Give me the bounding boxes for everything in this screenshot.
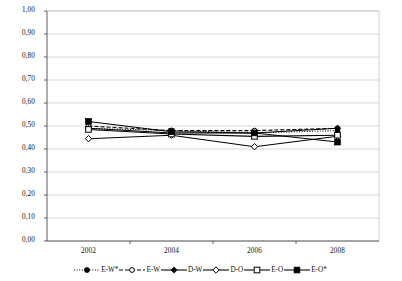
- data-point: [252, 130, 258, 136]
- y-axis-label: 1,00: [5, 6, 35, 14]
- legend-label: E-W*: [100, 266, 119, 274]
- legend-swatch-filled-square-icon: [284, 264, 310, 276]
- series-line: [89, 135, 338, 147]
- legend-marker: [294, 267, 300, 273]
- chart-canvas: [0, 0, 402, 281]
- legend-label: E-W: [145, 266, 161, 274]
- legend-label: D-W: [187, 266, 203, 274]
- x-axis-label: 2008: [318, 247, 358, 255]
- legend-swatch-open-square-icon: [244, 264, 270, 276]
- x-axis-label: 2004: [152, 247, 192, 255]
- legend-marker: [254, 267, 260, 273]
- legend-item-e-o[interactable]: E-O: [244, 263, 284, 277]
- legend-label: D-O: [229, 266, 244, 274]
- legend-marker: [213, 266, 219, 272]
- legend-marker: [171, 266, 177, 272]
- legend-label: E-O: [270, 266, 284, 274]
- y-axis-label: 0,60: [5, 98, 35, 106]
- data-point: [169, 129, 175, 135]
- legend-item-d-o[interactable]: D-O: [203, 263, 244, 277]
- legend-swatch-open-diamond-icon: [203, 264, 229, 276]
- y-axis-label: 0,50: [5, 121, 35, 129]
- legend-label: E-O*: [310, 266, 328, 274]
- data-point: [335, 132, 341, 138]
- y-axis-label: 0,70: [5, 75, 35, 83]
- y-axis-label: 0,20: [5, 190, 35, 198]
- data-point: [86, 127, 92, 133]
- y-axis-label: 0,30: [5, 167, 35, 175]
- line-chart: 1,000,900,800,700,600,500,400,300,200,10…: [0, 0, 402, 281]
- legend-item-d-w[interactable]: D-W: [161, 263, 203, 277]
- legend-marker: [130, 267, 135, 272]
- legend-item-e-o[interactable]: E-O*: [284, 263, 328, 277]
- y-axis-label: 0,80: [5, 52, 35, 60]
- legend-swatch-filled-circle-icon: [74, 264, 100, 276]
- data-point: [86, 119, 92, 125]
- data-point: [85, 135, 91, 141]
- y-axis-label: 0,00: [5, 236, 35, 244]
- y-axis-label: 0,10: [5, 213, 35, 221]
- legend-item-e-w[interactable]: E-W*: [74, 263, 119, 277]
- legend-swatch-open-circle-icon: [119, 264, 145, 276]
- legend-marker: [85, 267, 90, 272]
- chart-legend: E-W*E-WD-WD-OE-OE-O*: [0, 262, 402, 277]
- y-axis-label: 0,90: [5, 29, 35, 37]
- y-axis-label: 0,40: [5, 144, 35, 152]
- y-axis-ticks: [44, 11, 296, 244]
- legend-swatch-filled-diamond-icon: [161, 264, 187, 276]
- data-point: [335, 139, 341, 145]
- series-d-w: [85, 125, 340, 136]
- x-axis-label: 2002: [69, 247, 109, 255]
- x-axis-label: 2006: [235, 247, 275, 255]
- legend-item-e-w[interactable]: E-W: [119, 263, 161, 277]
